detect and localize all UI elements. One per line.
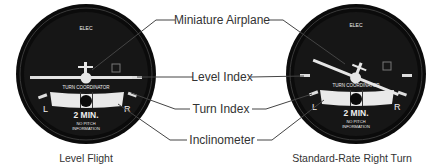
level-index-right [402, 74, 412, 77]
callout-inclinometer: Inclinometer [189, 133, 254, 147]
level-index-left [300, 74, 310, 77]
elec-label: ELEC [79, 25, 92, 31]
callout-miniature-airplane: Miniature Airplane [174, 13, 270, 27]
callout-turn-index: Turn Index [193, 102, 250, 116]
caption-level-flight: Level Flight [59, 152, 113, 164]
turn-coordinator-diagram: ELEC TURN COORDINATOR L R 2 MIN. NO PITC… [0, 0, 444, 168]
caption-right-turn: Standard-Rate Right Turn [292, 152, 412, 164]
inclinometer-ball [350, 93, 362, 105]
inclinometer-ball [80, 95, 92, 107]
time-label: 2 MIN. [343, 108, 368, 118]
gauge-title: TURN COORDINATOR [62, 85, 110, 90]
note-line-2: INFORMATION [72, 126, 100, 131]
note-line-2: INFORMATION [342, 124, 370, 129]
time-label: 2 MIN. [73, 110, 98, 120]
gauge-right-turn: ELEC TURN COORDINATOR L R 2 MIN. NO PITC… [286, 4, 426, 144]
gauge-level-flight: ELEC TURN COORDINATOR L R 2 MIN. NO PITC… [16, 4, 156, 144]
callout-level-index: Level Index [191, 70, 252, 84]
left-marker: L [43, 104, 48, 114]
inclinometer [320, 90, 394, 106]
elec-label: ELEC [349, 22, 362, 28]
level-index-left [30, 76, 40, 79]
right-marker: R [394, 102, 401, 112]
inclinometer [50, 92, 124, 108]
gauge-title: TURN COORDINATOR [332, 83, 380, 88]
